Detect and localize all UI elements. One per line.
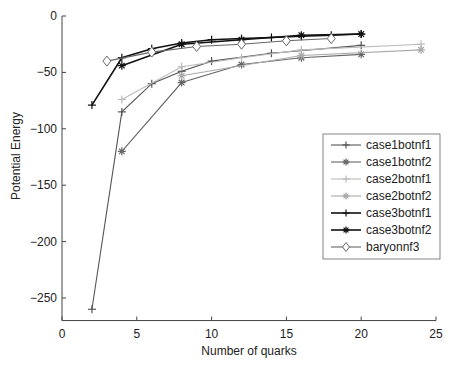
legend-label: case2botnf2	[366, 189, 432, 203]
x-tick-label: 5	[133, 327, 140, 341]
marker-star	[417, 46, 425, 54]
legend-label: case1botnf1	[366, 138, 432, 152]
marker-plus	[88, 101, 96, 109]
marker-plus	[208, 57, 216, 65]
marker-star	[297, 51, 305, 59]
legend: case1botnf1case1botnf2case2botnf1case2bo…	[323, 134, 440, 259]
y-tick-label: −50	[37, 65, 58, 79]
legend-label: case3botnf1	[366, 206, 432, 220]
marker-plus	[178, 63, 186, 71]
x-tick-label: 25	[429, 327, 443, 341]
marker-plus	[357, 41, 365, 49]
x-axis-label: Number of quarks	[201, 344, 296, 358]
y-tick-label: 0	[50, 9, 57, 23]
y-tick-label: −150	[30, 178, 57, 192]
x-tick-label: 15	[280, 327, 294, 341]
marker-plus	[88, 305, 96, 313]
marker-star	[178, 40, 186, 48]
marker-star	[343, 193, 350, 200]
marker-star	[343, 227, 350, 234]
legend-label: case3botnf2	[366, 223, 432, 237]
y-tick-label: −100	[30, 122, 57, 136]
marker-star	[357, 50, 365, 58]
x-tick-label: 20	[355, 327, 369, 341]
marker-star	[343, 159, 350, 166]
marker-diamond	[103, 56, 111, 66]
legend-label: case1botnf2	[366, 155, 432, 169]
y-tick-label: −250	[30, 291, 57, 305]
marker-star	[118, 147, 126, 155]
x-tick-label: 0	[59, 327, 66, 341]
marker-star	[357, 30, 365, 38]
y-tick-label: −200	[30, 235, 57, 249]
x-tick-label: 10	[205, 327, 219, 341]
marker-star	[297, 31, 305, 39]
marker-plus	[238, 54, 246, 62]
marker-plus	[118, 95, 126, 103]
legend-label: baryonnf3	[366, 240, 420, 254]
legend-label: case2botnf1	[366, 172, 432, 186]
y-axis-label: Potential Energy	[9, 112, 23, 200]
line-chart: 05101520250−50−100−150−200−250 case1botn…	[0, 0, 457, 373]
